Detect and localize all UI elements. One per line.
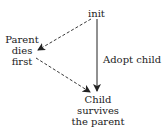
- parent-line1: Parent: [5, 35, 39, 45]
- parent-dies-first-node: Parent dies first: [5, 35, 39, 67]
- init-to-parent-dashed-arrow: [38, 19, 91, 50]
- parent-line3: first: [5, 57, 39, 67]
- child-survives-node: Child survives the parent: [70, 95, 126, 127]
- child-line3: the parent: [70, 117, 126, 127]
- diagram: init Parent dies first Adopt child Child…: [0, 0, 164, 132]
- parent-to-child-dashed-arrow: [36, 58, 90, 92]
- parent-line2: dies: [5, 46, 39, 56]
- child-line1: Child: [70, 95, 126, 105]
- child-line2: survives: [70, 106, 126, 116]
- init-node: init: [88, 9, 105, 19]
- adopt-child-label: Adopt child: [103, 55, 161, 65]
